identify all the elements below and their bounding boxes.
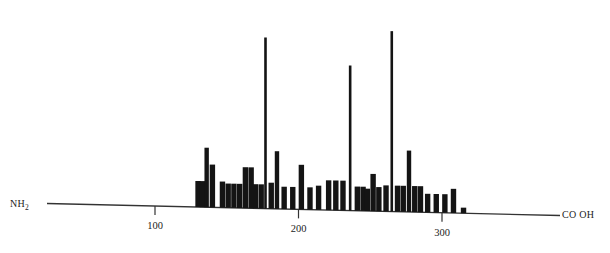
peak-bar xyxy=(355,187,360,211)
c-terminus-label: CO OH xyxy=(562,209,594,220)
peak-bar xyxy=(326,180,331,210)
n-terminus-subscript: 2 xyxy=(25,203,29,212)
peak-bar xyxy=(461,208,466,214)
peak-bar xyxy=(333,180,338,210)
peak-bar xyxy=(401,186,406,212)
peak-bar xyxy=(407,151,411,212)
peak-bar xyxy=(412,186,417,212)
peak-bar xyxy=(243,167,248,208)
peak-bar xyxy=(442,194,447,213)
peak-bar xyxy=(383,185,388,211)
n-terminus-text: NH xyxy=(10,198,25,209)
peak-bar xyxy=(316,186,321,210)
peak-bar xyxy=(210,165,215,208)
peak-bar xyxy=(237,184,242,208)
peak-bar xyxy=(299,165,304,210)
axis-tick-label: 100 xyxy=(147,220,163,231)
peak-bar xyxy=(281,187,286,209)
peak-bar xyxy=(340,181,345,211)
peak-bar xyxy=(370,174,375,211)
axis-tick-label: 300 xyxy=(434,227,450,238)
peak-bar xyxy=(290,187,295,209)
peak-bar xyxy=(390,31,393,211)
peak-bar xyxy=(264,37,267,208)
peak-bar xyxy=(451,189,456,213)
peak-bar xyxy=(220,182,225,208)
profile-plot xyxy=(0,0,610,253)
peak-bar xyxy=(376,187,381,211)
peak-bar xyxy=(425,194,430,213)
peak-bar xyxy=(275,151,279,209)
peak-bar xyxy=(395,186,400,212)
peak-bar xyxy=(434,194,439,213)
peak-bar xyxy=(258,184,263,208)
peak-bar xyxy=(204,148,208,208)
n-terminus-label: NH2 xyxy=(10,198,29,212)
peak-bar xyxy=(349,66,352,211)
peak-bar xyxy=(231,184,236,208)
peak-series xyxy=(195,31,466,213)
peak-bar xyxy=(307,187,312,209)
peak-bar xyxy=(365,189,370,211)
peak-bar xyxy=(269,183,274,209)
peak-bar xyxy=(225,184,230,208)
peak-bar xyxy=(200,181,205,207)
peak-bar xyxy=(418,186,423,212)
peak-bar xyxy=(253,184,258,208)
figure-container: NH2 CO OH 100200300 xyxy=(0,0,610,253)
axis-tick-label: 200 xyxy=(291,223,307,234)
